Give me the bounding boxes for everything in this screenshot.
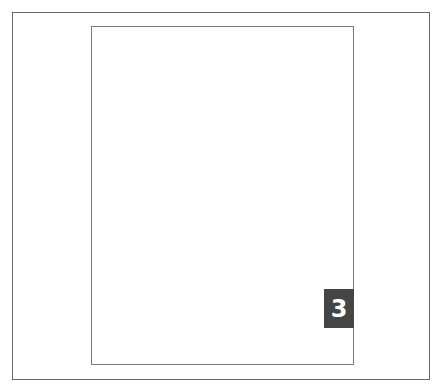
page-number-badge: 3 <box>324 289 354 328</box>
page-thumbnail[interactable] <box>91 26 354 365</box>
